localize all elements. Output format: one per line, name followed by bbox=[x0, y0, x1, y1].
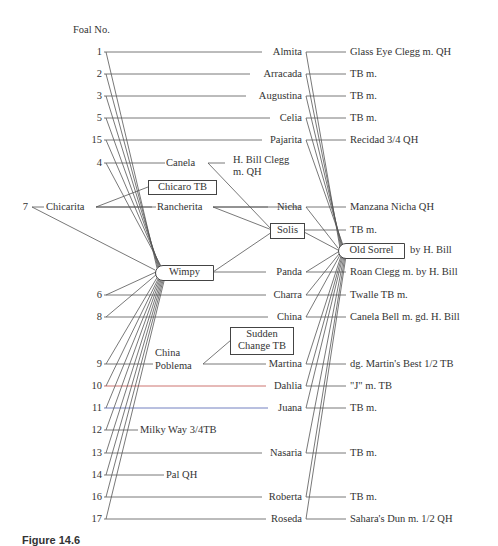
dam-name: Almita bbox=[273, 46, 302, 58]
dam-name-china-poblema: China Poblema bbox=[155, 346, 192, 372]
dam-name: Nicha bbox=[277, 201, 302, 213]
foal-number: 1 bbox=[72, 46, 102, 58]
sudden-change-box: Sudden Change TB bbox=[230, 327, 294, 355]
china-poblema-line2: Poblema bbox=[155, 359, 192, 372]
dam-name: Pajarita bbox=[270, 134, 302, 146]
foal-number: 4 bbox=[72, 157, 102, 169]
h-bill-clegg-line2: m. QH bbox=[233, 166, 289, 178]
dam-sire: Glass Eye Clegg m. QH bbox=[350, 46, 451, 58]
dam-sire: Roan Clegg m. by H. Bill bbox=[350, 266, 458, 278]
dam-name: China bbox=[277, 311, 302, 323]
foal-number: 10 bbox=[72, 380, 102, 392]
dam-sire: Sahara's Dun m. 1/2 QH bbox=[350, 513, 453, 525]
old-sorrel-suffix: by H. Bill bbox=[410, 244, 452, 256]
h-bill-clegg-label: H. Bill Clegg m. QH bbox=[233, 154, 289, 178]
dam-sire: "J" m. TB bbox=[350, 380, 392, 392]
foal-number: 15 bbox=[72, 134, 102, 146]
dam-name: Canela bbox=[166, 157, 195, 169]
sudden-change-line1: Sudden bbox=[231, 328, 293, 340]
foal-number: 5 bbox=[72, 112, 102, 124]
foal-number: 9 bbox=[72, 358, 102, 370]
foal-number: 11 bbox=[72, 402, 102, 414]
dam-name: Milky Way 3/4TB bbox=[140, 424, 217, 436]
solis-box: Solis bbox=[270, 223, 305, 239]
dam-name: Arracada bbox=[264, 68, 302, 80]
dam-name: Rancherita bbox=[157, 201, 202, 213]
dam-sire: TB m. bbox=[350, 402, 377, 414]
dam-sire: TB m. bbox=[350, 90, 377, 102]
dam-sire: Twalle TB m. bbox=[350, 289, 408, 301]
dam-sire: TB m. bbox=[350, 491, 377, 503]
dam-name: Charra bbox=[273, 289, 302, 301]
china-poblema-line1: China bbox=[155, 346, 192, 359]
foal-number: 17 bbox=[72, 513, 102, 525]
dam-name: Martina bbox=[269, 358, 302, 370]
foal-number-header: Foal No. bbox=[73, 24, 110, 36]
dam-name: Roberta bbox=[269, 491, 302, 503]
chicaro-box: Chicaro TB bbox=[148, 180, 217, 195]
dam-name: Juana bbox=[278, 402, 302, 414]
dam-name: Nasaria bbox=[270, 447, 302, 459]
h-bill-clegg-line1: H. Bill Clegg bbox=[233, 154, 289, 166]
foal-number: 12 bbox=[72, 424, 102, 436]
dam-sire: TB m. bbox=[350, 447, 377, 459]
foal-number: 6 bbox=[72, 289, 102, 301]
dam-name: Pal QH bbox=[166, 469, 197, 481]
dam-sire: Canela Bell m. gd. H. Bill bbox=[350, 311, 460, 323]
dam-name: Dahlia bbox=[274, 380, 302, 392]
dam-name: Augustina bbox=[259, 90, 302, 102]
dam-name: Chicarita bbox=[46, 201, 84, 213]
dam-name: Panda bbox=[276, 266, 302, 278]
foal-number: 8 bbox=[72, 311, 102, 323]
dam-sire: TB m. bbox=[350, 68, 377, 80]
foal-number: 3 bbox=[72, 90, 102, 102]
foal-number: 2 bbox=[72, 68, 102, 80]
foal-number: 13 bbox=[72, 447, 102, 459]
foal-number: 14 bbox=[72, 469, 102, 481]
sudden-change-line2: Change TB bbox=[231, 340, 293, 352]
old-sorrel-box: Old Sorrel bbox=[338, 243, 405, 259]
foal-number: 16 bbox=[72, 491, 102, 503]
dam-sire: TB m. bbox=[350, 224, 377, 236]
foal-number: 7 bbox=[0, 201, 28, 213]
dam-name: Roseda bbox=[271, 513, 302, 525]
dam-sire: Manzana Nicha QH bbox=[350, 201, 434, 213]
dam-sire: Recidad 3/4 QH bbox=[350, 134, 418, 146]
dam-sire: dg. Martin's Best 1/2 TB bbox=[350, 358, 454, 370]
wimpy-box: Wimpy bbox=[155, 265, 214, 281]
dam-sire: TB m. bbox=[350, 112, 377, 124]
dam-name: Celia bbox=[280, 112, 302, 124]
figure-caption: Figure 14.6 bbox=[22, 534, 80, 546]
